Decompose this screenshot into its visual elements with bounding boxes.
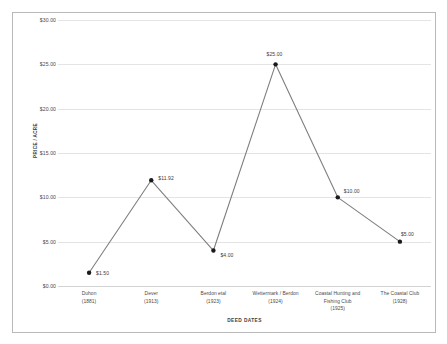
data-point-marker [336,195,340,199]
line-series [58,20,431,286]
data-point-label: $5.00 [401,231,414,237]
series-markers [87,62,402,275]
x-tick-label-year: (1928) [369,298,431,306]
x-tick-label-name: Duhon [82,291,97,296]
x-tick-label: The Coastal Club(1928) [369,290,431,305]
x-tick-label-year: (1913) [120,298,182,306]
data-point-marker [87,271,91,275]
data-point-marker [398,239,402,243]
data-point-label: $10.00 [344,188,360,194]
x-tick-label-year: (1924) [245,298,307,306]
plot-area: $1.50$11.92$4.00$25.00$10.00$5.00 [58,20,431,286]
x-axis-title: DEED DATES [58,318,431,323]
x-tick-label: Duhon(1881) [58,290,120,305]
data-point-label: $11.92 [158,175,174,181]
x-tick-label: Wettermark / Berdon(1924) [245,290,307,305]
x-axis-line [58,286,431,287]
data-point-marker [149,178,153,182]
x-tick-label: Coastal Hunting and Fishing Club(1925) [307,290,369,313]
x-tick-label-year: (1925) [307,305,369,313]
y-tick-label: $20.00 [14,106,56,112]
x-tick-label-year: (1923) [182,298,244,306]
x-tick-label-name: Wettermark / Berdon [253,291,299,296]
data-point-label: $25.00 [267,51,283,57]
y-tick-label: $15.00 [14,150,56,156]
x-tick-label: Berdon etal(1923) [182,290,244,305]
x-tick-label-name: The Coastal Club [381,291,420,296]
y-tick-label: $25.00 [14,61,56,67]
y-tick-label: $5.00 [14,239,56,245]
data-point-marker [211,248,215,252]
y-tick-label: $30.00 [14,17,56,23]
x-tick-label: Dever(1913) [120,290,182,305]
data-point-label: $1.50 [96,270,109,276]
chart-frame: PRICE / ACRE $30.00 $25.00 $20.00 $15.00… [12,12,436,333]
series-polyline [89,64,400,272]
data-point-label: $4.00 [220,252,233,258]
y-tick-label: $10.00 [14,194,56,200]
x-tick-label-name: Coastal Hunting and Fishing Club [315,291,360,304]
x-tick-label-name: Dever [145,291,158,296]
y-axis-tick-labels: $30.00 $25.00 $20.00 $15.00 $10.00 $5.00… [13,20,56,286]
x-tick-label-year: (1881) [58,298,120,306]
x-tick-label-name: Berdon etal [201,291,227,296]
data-point-marker [273,62,277,66]
y-tick-label: $0.00 [14,283,56,289]
